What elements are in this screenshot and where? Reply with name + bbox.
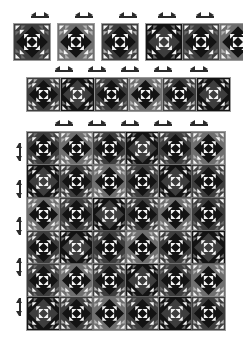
quilt-grid-cell[interactable] [159,198,192,231]
quilt-block [14,24,50,60]
up-down-arrow-icon [16,298,23,316]
quilt-grid-cell[interactable] [27,165,60,198]
quilt-grid-cell[interactable] [93,297,126,330]
left-right-arrow-icon [88,120,106,127]
quilt-block [102,24,138,60]
left-right-arrow-icon [31,12,49,19]
quilt-block[interactable] [146,24,183,60]
quilt-grid-cell[interactable] [93,198,126,231]
quilt-grid-cell[interactable] [27,198,60,231]
quilt-grid-cell[interactable] [60,132,93,165]
block-strip-row [0,66,243,114]
quilt-grid-cell[interactable] [126,264,159,297]
quilt-grid-cell[interactable] [192,165,225,198]
sample-block-b[interactable] [57,23,95,61]
quilt-grid-cell[interactable] [60,231,93,264]
quilt-grid-cell[interactable] [126,132,159,165]
quilt-grid-cell[interactable] [192,297,225,330]
left-right-arrow-icon [196,12,214,19]
quilt-grid-cell[interactable] [60,264,93,297]
quilt-grid-cell[interactable] [27,132,60,165]
left-right-arrow-icon [55,120,73,127]
quilt-block[interactable] [220,24,243,60]
left-right-arrow-icon [119,12,137,19]
quilt-grid-cell[interactable] [159,231,192,264]
quilt-grid-cell[interactable] [60,297,93,330]
quilt-grid-cell[interactable] [159,132,192,165]
quilt-grid-cell[interactable] [93,231,126,264]
quilt-grid-cell[interactable] [27,264,60,297]
left-right-arrow-icon [121,120,139,127]
quilt-grid-cell[interactable] [93,264,126,297]
up-down-arrow-icon [16,143,23,161]
quilt-grid-cell[interactable] [192,264,225,297]
quilt-layout-panel [0,120,243,350]
up-down-arrow-icon [16,180,23,198]
quilt-block[interactable] [183,24,220,60]
left-right-arrow-icon [55,66,73,73]
left-right-arrow-icon [154,120,172,127]
quilt-grid-cell[interactable] [159,264,192,297]
quilt-block[interactable] [163,78,197,111]
quilt-grid-cell[interactable] [126,297,159,330]
quilt-grid-cell[interactable] [27,297,60,330]
left-right-arrow-icon [190,120,208,127]
quilt-block [58,24,94,60]
quilt-grid-cell[interactable] [159,297,192,330]
left-right-arrow-icon [158,12,176,19]
sample-block-a[interactable] [13,23,51,61]
quilt-block[interactable] [129,78,163,111]
up-down-arrow-icon [16,258,23,276]
left-right-arrow-icon [121,66,139,73]
left-right-arrow-icon [88,66,106,73]
quilt-grid-cell[interactable] [192,132,225,165]
quilt-grid-cell[interactable] [93,165,126,198]
strip-blocks[interactable] [26,77,231,112]
quilt-layout-grid[interactable] [26,131,226,331]
quilt-grid-cell[interactable] [126,231,159,264]
quilt-grid-cell[interactable] [126,198,159,231]
sample-joined-blocks[interactable] [145,23,243,61]
quilt-grid-cell[interactable] [60,198,93,231]
sample-block-c[interactable] [101,23,139,61]
sample-blocks-row [0,12,243,62]
left-right-arrow-icon [154,66,172,73]
quilt-grid-cell[interactable] [93,132,126,165]
quilt-block[interactable] [61,78,95,111]
quilt-block[interactable] [197,78,230,111]
quilt-block[interactable] [95,78,129,111]
quilt-grid-cell[interactable] [192,198,225,231]
quilt-grid-cell[interactable] [159,165,192,198]
quilt-grid-cell[interactable] [60,165,93,198]
up-down-arrow-icon [16,217,23,235]
quilt-grid-cell[interactable] [27,231,60,264]
quilt-grid-cell[interactable] [126,165,159,198]
left-right-arrow-icon [75,12,93,19]
left-right-arrow-icon [190,66,208,73]
quilt-block[interactable] [27,78,61,111]
quilt-grid-cell[interactable] [192,231,225,264]
